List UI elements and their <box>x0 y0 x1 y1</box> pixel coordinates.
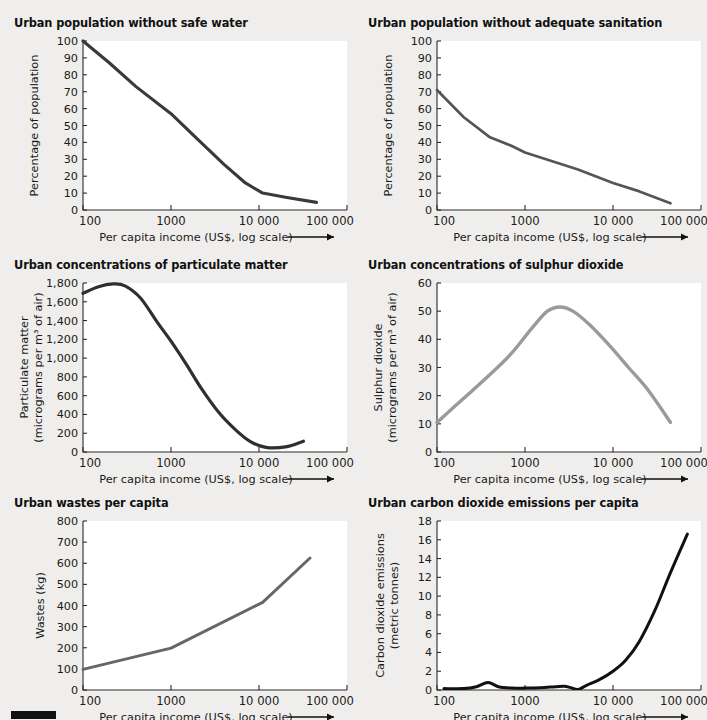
y-axis-label-line1: Sulphur dioxide <box>372 323 385 411</box>
ytick-label: 70 <box>418 86 432 99</box>
plot-area-carbon-dioxide-emissions <box>437 521 701 690</box>
ytick-label: 100 <box>57 663 78 676</box>
ytick-label: 20 <box>418 390 432 403</box>
chart-panel-sanitation: Urban population without adequate sanita… <box>354 0 707 240</box>
xtick-label: 1000 <box>156 456 186 470</box>
ytick-label: 4 <box>425 646 432 659</box>
ytick-label: 100 <box>411 35 432 48</box>
ytick-label: 10 <box>418 418 432 431</box>
chart-panel-safe-water: Urban population without safe water01020… <box>0 0 353 240</box>
chart-panel-wastes-per-capita: Urban wastes per capita01002003004005006… <box>0 480 353 720</box>
chart-canvas-wastes-per-capita: 0100200300400500600700800100100010 00010… <box>0 480 353 720</box>
figure-grid: Urban population without safe water01020… <box>0 0 707 720</box>
ytick-label: 800 <box>57 515 78 528</box>
y-axis-label-line1: Particulate matter <box>18 316 31 419</box>
ytick-label: 800 <box>57 371 78 384</box>
xtick-label: 100 000 <box>660 214 707 228</box>
ytick-label: 30 <box>418 153 432 166</box>
ytick-label: 12 <box>418 571 432 584</box>
ytick-label: 10 <box>418 590 432 603</box>
ytick-label: 90 <box>418 52 432 65</box>
chart-canvas-sulphur-dioxide: 0102030405060100100010 000100 000Per cap… <box>354 242 707 482</box>
xtick-label: 1000 <box>510 456 540 470</box>
chart-panel-particulate-matter: Urban concentrations of particulate matt… <box>0 242 353 482</box>
ytick-label: 700 <box>57 536 78 549</box>
chart-canvas-carbon-dioxide-emissions: 024681012141618100100010 000100 000Per c… <box>354 480 707 720</box>
xtick-label: 100 <box>433 214 455 228</box>
ytick-label: 40 <box>418 136 432 149</box>
chart-canvas-sanitation: 0102030405060708090100100100010 000100 0… <box>354 0 707 240</box>
chart-panel-carbon-dioxide-emissions: Urban carbon dioxide emissions per capit… <box>354 480 707 720</box>
ytick-label: 50 <box>418 120 432 133</box>
xtick-label: 100 000 <box>306 214 354 228</box>
x-axis-arrow-head <box>681 233 688 240</box>
x-axis-label: Per capita income (US$, log scale) <box>99 711 293 720</box>
ytick-label: 10 <box>64 187 78 200</box>
ytick-label: 40 <box>64 136 78 149</box>
xtick-label: 1000 <box>510 214 540 228</box>
ytick-label: 60 <box>418 103 432 116</box>
xtick-label: 100 <box>79 214 101 228</box>
ytick-label: 0 <box>425 684 432 697</box>
y-axis-label: Percentage of population <box>382 55 395 197</box>
ytick-label: 70 <box>64 86 78 99</box>
ytick-label: 200 <box>57 427 78 440</box>
chart-canvas-safe-water: 0102030405060708090100100100010 000100 0… <box>0 0 353 240</box>
ytick-label: 6 <box>425 628 432 641</box>
xtick-label: 10 000 <box>239 456 280 470</box>
xtick-label: 100 000 <box>306 456 354 470</box>
ytick-label: 400 <box>57 408 78 421</box>
ytick-label: 600 <box>57 390 78 403</box>
plot-area-particulate-matter <box>83 283 347 452</box>
ytick-label: 80 <box>418 69 432 82</box>
ytick-label: 50 <box>418 305 432 318</box>
xtick-label: 10 000 <box>239 214 280 228</box>
xtick-label: 100 <box>79 694 101 708</box>
xtick-label: 10 000 <box>593 214 634 228</box>
x-axis-arrow-head <box>327 233 334 240</box>
xtick-label: 100 000 <box>660 456 707 470</box>
xtick-label: 10 000 <box>593 456 634 470</box>
ytick-label: 200 <box>57 642 78 655</box>
x-axis-arrow-head <box>681 713 688 720</box>
chart-canvas-particulate-matter: 02004006008001,0001,2001,4001,6001,80010… <box>0 242 353 482</box>
plot-area-wastes-per-capita <box>83 521 347 690</box>
ytick-label: 40 <box>418 333 432 346</box>
ytick-label: 1,200 <box>46 333 78 346</box>
ytick-label: 500 <box>57 578 78 591</box>
chart-panel-sulphur-dioxide: Urban concentrations of sulphur dioxide0… <box>354 242 707 482</box>
ytick-label: 1,800 <box>46 277 78 290</box>
ytick-label: 30 <box>64 153 78 166</box>
ytick-label: 50 <box>64 120 78 133</box>
y-axis-label: Wastes (kg) <box>34 572 47 639</box>
ytick-label: 0 <box>71 446 78 459</box>
ytick-label: 0 <box>71 204 78 217</box>
ytick-label: 90 <box>64 52 78 65</box>
xtick-label: 100 <box>79 456 101 470</box>
y-axis-label: Percentage of population <box>28 55 41 197</box>
xtick-label: 100 000 <box>660 694 707 708</box>
ytick-label: 1,000 <box>46 352 78 365</box>
corner-marker-bar <box>11 711 56 719</box>
ytick-label: 60 <box>64 103 78 116</box>
xtick-label: 1000 <box>156 214 186 228</box>
ytick-label: 60 <box>418 277 432 290</box>
xtick-label: 100 <box>433 694 455 708</box>
ytick-label: 20 <box>64 170 78 183</box>
x-axis-arrow-head <box>327 713 334 720</box>
ytick-label: 2 <box>425 665 432 678</box>
plot-area-safe-water <box>83 41 347 210</box>
ytick-label: 600 <box>57 557 78 570</box>
ytick-label: 400 <box>57 600 78 613</box>
xtick-label: 100 000 <box>306 694 354 708</box>
y-axis-label-line2: (micrograms per m³ of air) <box>386 292 399 442</box>
ytick-label: 30 <box>418 362 432 375</box>
x-axis-label: Per capita income (US$, log scale) <box>453 711 647 720</box>
ytick-label: 10 <box>418 187 432 200</box>
ytick-label: 1,400 <box>46 315 78 328</box>
y-axis-label-line1: Carbon dioxide emissions <box>374 533 387 678</box>
xtick-label: 10 000 <box>593 694 634 708</box>
xtick-label: 10 000 <box>239 694 280 708</box>
ytick-label: 18 <box>418 515 432 528</box>
ytick-label: 0 <box>425 446 432 459</box>
